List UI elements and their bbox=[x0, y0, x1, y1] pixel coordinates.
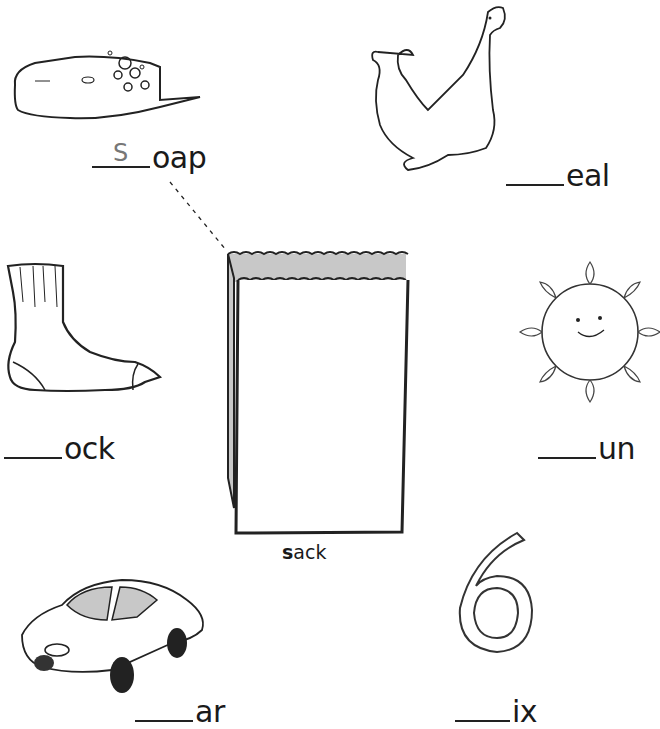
word-sock: ock bbox=[4, 434, 115, 464]
number-six-picture bbox=[452, 528, 542, 658]
word-car: ar bbox=[135, 697, 225, 727]
sun-picture bbox=[520, 262, 660, 402]
word-six: ix bbox=[455, 697, 537, 727]
soap-picture bbox=[10, 45, 210, 125]
word-soap: oap bbox=[92, 143, 206, 173]
sock-picture bbox=[5, 262, 165, 402]
car-picture bbox=[12, 575, 212, 685]
seal-picture bbox=[368, 0, 508, 180]
paper-sack-picture[interactable] bbox=[222, 248, 422, 538]
answer-blank[interactable] bbox=[135, 719, 193, 722]
answer-blank[interactable] bbox=[506, 183, 564, 186]
sack-caption: sack bbox=[282, 541, 326, 563]
traced-example-letter: S bbox=[113, 139, 128, 167]
answer-blank[interactable] bbox=[4, 456, 62, 459]
answer-blank[interactable] bbox=[538, 456, 596, 459]
word-sun: un bbox=[538, 434, 635, 464]
word-seal: eal bbox=[506, 161, 610, 191]
answer-blank[interactable] bbox=[455, 719, 510, 722]
